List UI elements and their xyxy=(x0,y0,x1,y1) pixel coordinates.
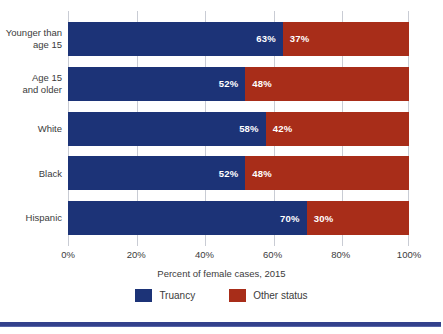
x-axis-tick-label: 40% xyxy=(195,249,214,260)
bar-segment-other-status: 48% xyxy=(245,67,409,101)
bar-row: 63%37% xyxy=(68,22,409,56)
x-axis-title: Percent of female cases, 2015 xyxy=(0,268,443,279)
legend-label: Other status xyxy=(253,290,307,301)
stacked-bar-chart: 63%37%52%48%58%42%52%48%70%30% Younger t… xyxy=(0,0,443,334)
chart-legend: TruancyOther status xyxy=(0,289,443,302)
bar-row: 52%48% xyxy=(68,156,409,190)
y-axis-category-label: Younger than age 15 xyxy=(0,27,62,50)
bar-segment-truancy: 63% xyxy=(68,22,283,56)
x-axis-tick-label: 100% xyxy=(397,249,421,260)
bar-value-label: 63% xyxy=(256,33,283,44)
bar-value-label: 70% xyxy=(280,213,307,224)
bar-segment-truancy: 58% xyxy=(68,112,266,146)
x-axis-tick-label: 80% xyxy=(331,249,350,260)
bar-segment-truancy: 52% xyxy=(68,156,245,190)
bar-value-label: 52% xyxy=(219,168,246,179)
x-axis-ticks: 0%20%40%60%80%100% xyxy=(68,249,409,263)
bar-row: 52%48% xyxy=(68,67,409,101)
bar-row: 58%42% xyxy=(68,112,409,146)
bar-value-label: 48% xyxy=(245,168,272,179)
bar-segment-other-status: 48% xyxy=(245,156,409,190)
x-axis-tick-label: 60% xyxy=(263,249,282,260)
bar-segment-other-status: 30% xyxy=(307,201,409,235)
x-axis-tick-label: 20% xyxy=(127,249,146,260)
x-axis-tick-label: 0% xyxy=(61,249,75,260)
bottom-rule-divider xyxy=(0,322,441,327)
legend-item[interactable]: Other status xyxy=(229,289,307,302)
y-axis-category-label: Age 15 and older xyxy=(0,72,62,95)
bars-layer: 63%37%52%48%58%42%52%48%70%30% xyxy=(68,11,409,246)
legend-swatch-icon xyxy=(135,289,152,302)
bar-value-label: 58% xyxy=(239,123,266,134)
bar-value-label: 42% xyxy=(266,123,293,134)
bar-value-label: 37% xyxy=(283,33,310,44)
bar-value-label: 52% xyxy=(219,78,246,89)
bar-value-label: 48% xyxy=(245,78,272,89)
legend-swatch-icon xyxy=(229,289,246,302)
y-axis-category-label: Black xyxy=(0,168,62,180)
bar-row: 70%30% xyxy=(68,201,409,235)
bar-segment-other-status: 37% xyxy=(283,22,409,56)
y-axis-category-label: Hispanic xyxy=(0,212,62,224)
bar-segment-truancy: 70% xyxy=(68,201,307,235)
y-axis-labels: Younger than age 15Age 15 and olderWhite… xyxy=(0,11,62,246)
bar-segment-other-status: 42% xyxy=(266,112,409,146)
legend-item[interactable]: Truancy xyxy=(135,289,195,302)
bar-value-label: 30% xyxy=(307,213,334,224)
legend-label: Truancy xyxy=(159,290,195,301)
y-axis-category-label: White xyxy=(0,123,62,135)
bar-segment-truancy: 52% xyxy=(68,67,245,101)
